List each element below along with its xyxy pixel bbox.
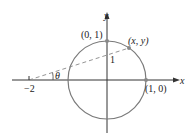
label-right-point: (1, 0) xyxy=(145,83,167,95)
label-theta: θ xyxy=(55,70,60,81)
x-axis-arrow-icon xyxy=(173,78,180,83)
angle-arc xyxy=(53,73,54,80)
label-top-point: (0, 1) xyxy=(81,29,103,41)
label-moving-point: (x, y) xyxy=(128,35,149,47)
label-intercept: 1 xyxy=(110,54,115,65)
label-minus-two: −2 xyxy=(24,83,35,94)
unit-circle-diagram: y x (0, 1) (x, y) (1, 0) −2 θ 1 xyxy=(0,0,189,139)
point-right xyxy=(144,78,148,82)
point-top xyxy=(105,39,109,43)
point-moving xyxy=(127,46,131,50)
x-axis-label: x xyxy=(179,75,185,86)
y-axis-label: y xyxy=(103,10,109,21)
